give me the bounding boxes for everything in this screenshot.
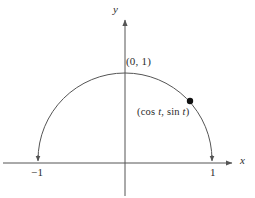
param-label-middle: , sin — [161, 106, 182, 117]
parametric-point-label: (cos t, sin t) — [137, 107, 189, 118]
y-axis-label: y — [113, 4, 118, 15]
parametric-semicircle-figure: y x (0, 1) (cos t, sin t) −1 1 — [0, 0, 255, 198]
param-label-prefix: (cos — [137, 106, 158, 117]
x-tick-label-pos-one: 1 — [210, 167, 216, 178]
x-axis-label: x — [240, 155, 245, 166]
point-on-curve-marker — [187, 98, 193, 104]
x-tick-label-neg-one: −1 — [31, 167, 43, 178]
param-label-suffix: ) — [186, 106, 190, 117]
top-point-label: (0, 1) — [126, 56, 151, 67]
